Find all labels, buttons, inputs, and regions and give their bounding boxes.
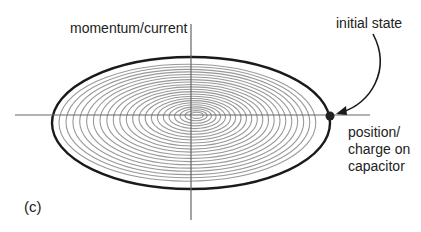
arrow-head-icon	[336, 106, 347, 115]
initial-state-arrow	[342, 34, 380, 112]
initial-state-label: initial state	[336, 15, 402, 32]
panel-label: (c)	[24, 198, 42, 215]
x-axis-label-3: capacitor	[348, 158, 405, 175]
x-axis-label-2: charge on	[348, 141, 410, 158]
decaying-spiral	[59, 64, 316, 181]
spiral-ring	[157, 101, 230, 135]
spiral-ring	[87, 75, 292, 169]
initial-state-dot	[326, 112, 335, 121]
spiral-ring	[133, 92, 252, 146]
phase-diagram	[0, 0, 421, 232]
y-axis-label: momentum/current	[70, 20, 187, 37]
x-axis-label-1: position/	[348, 124, 400, 141]
